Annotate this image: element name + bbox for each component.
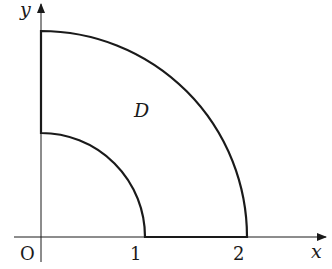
region-d-boundary — [41, 31, 247, 237]
x-tick-2-label: 2 — [233, 245, 244, 263]
origin-label: O — [20, 245, 35, 263]
x-tick-1-label: 1 — [130, 245, 141, 263]
x-axis-label: x — [311, 242, 322, 261]
diagram-figure: y x O 1 2 D — [0, 0, 332, 269]
y-axis-label: y — [20, 0, 31, 19]
diagram-canvas — [0, 0, 332, 269]
region-d-label: D — [134, 101, 149, 120]
